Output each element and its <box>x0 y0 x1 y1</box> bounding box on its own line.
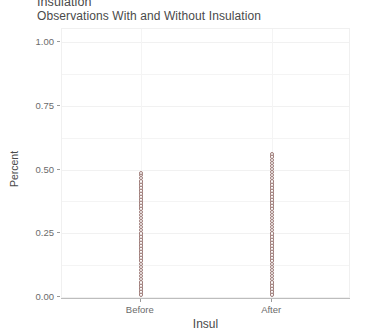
chart-title: Insulation <box>37 0 92 9</box>
x-axis-line <box>61 298 350 299</box>
x-tick-mark <box>271 299 272 302</box>
y-tick-mark <box>57 41 60 42</box>
y-tick-mark <box>57 296 60 297</box>
x-tick-label-before: Before <box>126 304 154 315</box>
y-tick-mark <box>57 232 60 233</box>
x-tick-mark <box>140 299 141 302</box>
chart-subtitle: Observations With and Without Insulation <box>37 9 261 23</box>
gridline-horizontal-minor <box>62 74 349 75</box>
x-axis-title: Insul <box>61 317 350 331</box>
x-tick-label-after: After <box>261 304 281 315</box>
plot-panel <box>61 28 350 298</box>
y-tick-label: 0.00 <box>36 291 55 302</box>
y-tick-label: 1.00 <box>36 36 55 47</box>
gridline-horizontal-major <box>62 170 349 171</box>
gridline-horizontal-minor <box>62 138 349 139</box>
gridline-horizontal-minor <box>62 201 349 202</box>
y-tick-label: 0.75 <box>36 99 55 110</box>
y-tick-mark <box>57 169 60 170</box>
dot-plot-chart: Insulation Observations With and Without… <box>0 0 366 336</box>
y-axis-title: Percent <box>8 134 20 204</box>
y-tick-label: 0.50 <box>36 163 55 174</box>
gridline-horizontal-minor <box>62 265 349 266</box>
dot-column-before <box>136 29 145 298</box>
gridline-horizontal-major <box>62 106 349 107</box>
gridline-horizontal-major <box>62 42 349 43</box>
y-tick-label: 0.25 <box>36 227 55 238</box>
y-tick-mark <box>57 105 60 106</box>
dot-column-after <box>268 29 277 298</box>
gridline-horizontal-major <box>62 233 349 234</box>
